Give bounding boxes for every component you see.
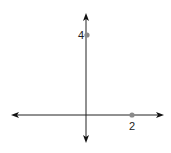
- coordinate-plane: 4 2: [0, 0, 171, 153]
- point-x-2-label: 2: [129, 120, 135, 132]
- point-y-4-label: 4: [78, 29, 84, 41]
- point-y-4: 4: [78, 29, 90, 41]
- point-x-2: 2: [129, 112, 135, 132]
- x-axis: [11, 112, 164, 118]
